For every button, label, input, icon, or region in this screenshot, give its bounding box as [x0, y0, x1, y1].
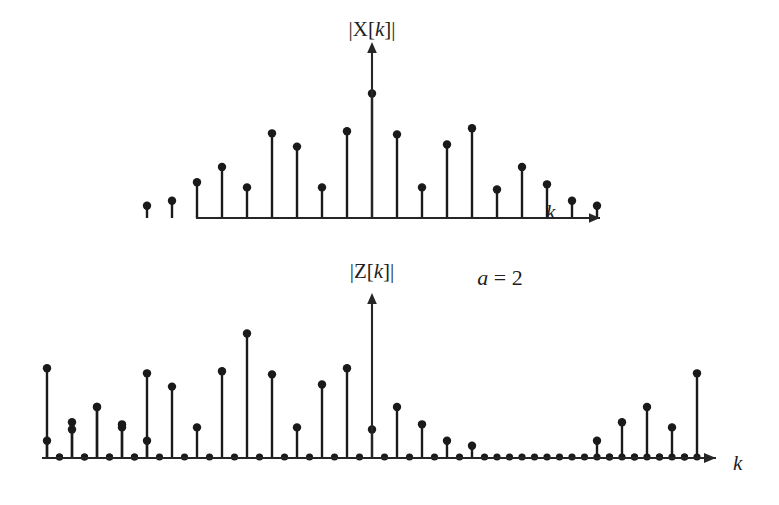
bottom-stem-head: [693, 369, 701, 377]
top-stem-head: [318, 183, 326, 191]
bottom-stem-head: [68, 418, 76, 426]
bottom-stem-head: [618, 418, 626, 426]
bottom-panel-x-axis-label: k: [733, 451, 743, 475]
parameter-annotation: a = 2: [477, 265, 522, 290]
bottom-stem-head: [68, 425, 76, 433]
bottom-stem-head: [118, 420, 126, 428]
bottom-stem-head: [143, 369, 151, 377]
bottom-stem-head: [668, 423, 676, 431]
bottom-stem-head: [218, 367, 226, 375]
figure-canvas: |X[k]| k a = 2 |Z[k]| k: [0, 0, 779, 505]
top-panel-x-axis-label: k: [546, 200, 556, 224]
top-stem-head: [243, 183, 251, 191]
top-panel-x-axis-arrow: [589, 213, 600, 223]
bottom-stem-head: [443, 436, 451, 444]
bottom-stem-head: [393, 403, 401, 411]
bottom-stem-head: [468, 442, 476, 450]
stem-plot-svg: |X[k]| k a = 2 |Z[k]| k: [0, 0, 779, 505]
bottom-stem-head: [593, 436, 601, 444]
top-panel-y-axis-arrow: [367, 42, 377, 53]
bottom-stem-head: [268, 370, 276, 378]
bottom-stem-head: [418, 420, 426, 428]
top-panel: |X[k]| k: [143, 17, 601, 224]
bottom-panel-y-axis-arrow: [367, 293, 377, 304]
bottom-stem-head: [643, 403, 651, 411]
bottom-stem-head: [143, 436, 151, 444]
top-stem-head: [593, 202, 601, 210]
top-stem-head: [343, 127, 351, 135]
bottom-stem-head: [193, 423, 201, 431]
top-stem-head: [543, 180, 551, 188]
bottom-panel-x-axis-arrow: [704, 453, 716, 463]
top-stem-head: [418, 183, 426, 191]
top-stem-head: [568, 196, 576, 204]
top-stem-head: [393, 130, 401, 138]
top-stem-head: [493, 185, 501, 193]
bottom-stem-head: [168, 382, 176, 390]
top-stem-head: [193, 178, 201, 186]
bottom-stem-head: [43, 364, 51, 372]
bottom-stem-head: [93, 403, 101, 411]
top-stem-head: [468, 124, 476, 132]
top-stem-head: [143, 202, 151, 210]
top-stem-head: [218, 163, 226, 171]
bottom-stem-head: [343, 364, 351, 372]
bottom-stem-head: [318, 380, 326, 388]
bottom-stem-head: [243, 329, 251, 337]
top-panel-y-axis-label: |X[k]|: [349, 17, 396, 41]
top-stem-head: [443, 140, 451, 148]
bottom-panel: |Z[k]| k: [42, 259, 743, 475]
top-stem-head: [518, 163, 526, 171]
top-stem-head: [268, 129, 276, 137]
top-stem-head: [168, 196, 176, 204]
top-stem-head: [293, 142, 301, 150]
bottom-panel-y-axis-label: |Z[k]|: [350, 259, 395, 283]
bottom-stem-head: [293, 423, 301, 431]
